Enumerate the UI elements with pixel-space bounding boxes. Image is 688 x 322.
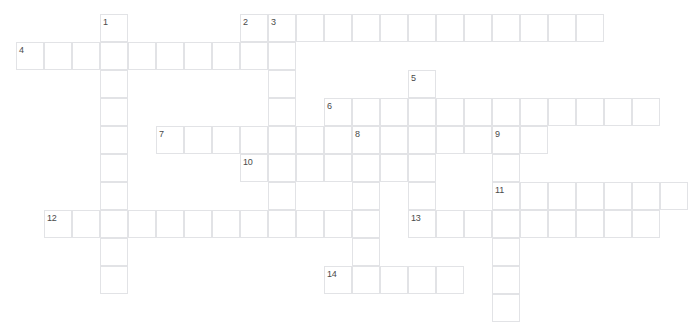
crossword-cell[interactable]	[44, 42, 72, 70]
crossword-cell[interactable]	[212, 210, 240, 238]
crossword-cell[interactable]	[604, 182, 632, 210]
crossword-cell[interactable]	[352, 98, 380, 126]
crossword-cell[interactable]	[632, 210, 660, 238]
crossword-cell[interactable]	[268, 182, 296, 210]
crossword-cell[interactable]	[324, 210, 352, 238]
crossword-cell[interactable]	[184, 210, 212, 238]
crossword-cell[interactable]	[156, 126, 184, 154]
crossword-cell[interactable]	[296, 14, 324, 42]
crossword-cell[interactable]	[352, 210, 380, 238]
crossword-cell[interactable]	[268, 126, 296, 154]
crossword-cell[interactable]	[492, 14, 520, 42]
crossword-cell[interactable]	[240, 126, 268, 154]
crossword-cell[interactable]	[240, 14, 268, 42]
crossword-cell[interactable]	[632, 98, 660, 126]
crossword-cell[interactable]	[100, 238, 128, 266]
crossword-cell[interactable]	[408, 182, 436, 210]
crossword-cell[interactable]	[492, 238, 520, 266]
crossword-cell[interactable]	[324, 126, 352, 154]
crossword-cell[interactable]	[492, 210, 520, 238]
crossword-cell[interactable]	[408, 98, 436, 126]
crossword-cell[interactable]	[352, 126, 380, 154]
crossword-cell[interactable]	[548, 210, 576, 238]
crossword-cell[interactable]	[296, 210, 324, 238]
crossword-cell[interactable]	[352, 154, 380, 182]
crossword-cell[interactable]	[184, 126, 212, 154]
crossword-cell[interactable]	[436, 210, 464, 238]
crossword-cell[interactable]	[100, 126, 128, 154]
crossword-cell[interactable]	[380, 98, 408, 126]
crossword-cell[interactable]	[464, 14, 492, 42]
crossword-cell[interactable]	[100, 266, 128, 294]
crossword-cell[interactable]	[408, 14, 436, 42]
crossword-cell[interactable]	[72, 210, 100, 238]
crossword-cell[interactable]	[464, 210, 492, 238]
crossword-cell[interactable]	[548, 14, 576, 42]
crossword-cell[interactable]	[156, 210, 184, 238]
crossword-cell[interactable]	[268, 154, 296, 182]
crossword-cell[interactable]	[296, 154, 324, 182]
crossword-cell[interactable]	[548, 182, 576, 210]
crossword-cell[interactable]	[380, 154, 408, 182]
crossword-cell[interactable]	[240, 210, 268, 238]
crossword-cell[interactable]	[352, 238, 380, 266]
crossword-cell[interactable]	[576, 14, 604, 42]
crossword-cell[interactable]	[492, 266, 520, 294]
crossword-cell[interactable]	[44, 210, 72, 238]
crossword-cell[interactable]	[324, 266, 352, 294]
crossword-cell[interactable]	[324, 154, 352, 182]
crossword-cell[interactable]	[492, 126, 520, 154]
crossword-cell[interactable]	[520, 182, 548, 210]
crossword-cell[interactable]	[100, 42, 128, 70]
crossword-cell[interactable]	[576, 210, 604, 238]
crossword-cell[interactable]	[268, 210, 296, 238]
crossword-cell[interactable]	[408, 154, 436, 182]
crossword-cell[interactable]	[492, 98, 520, 126]
crossword-cell[interactable]	[268, 14, 296, 42]
crossword-cell[interactable]	[324, 98, 352, 126]
crossword-cell[interactable]	[100, 154, 128, 182]
crossword-cell[interactable]	[380, 126, 408, 154]
crossword-cell[interactable]	[212, 42, 240, 70]
crossword-cell[interactable]	[380, 266, 408, 294]
crossword-cell[interactable]	[296, 126, 324, 154]
crossword-cell[interactable]	[492, 154, 520, 182]
crossword-cell[interactable]	[520, 126, 548, 154]
crossword-cell[interactable]	[576, 98, 604, 126]
crossword-cell[interactable]	[660, 182, 688, 210]
crossword-cell[interactable]	[576, 182, 604, 210]
crossword-cell[interactable]	[520, 14, 548, 42]
crossword-cell[interactable]	[212, 126, 240, 154]
crossword-cell[interactable]	[100, 14, 128, 42]
crossword-cell[interactable]	[100, 210, 128, 238]
crossword-cell[interactable]	[408, 266, 436, 294]
crossword-cell[interactable]	[324, 14, 352, 42]
crossword-cell[interactable]	[100, 182, 128, 210]
crossword-cell[interactable]	[268, 98, 296, 126]
crossword-cell[interactable]	[492, 182, 520, 210]
crossword-cell[interactable]	[128, 210, 156, 238]
crossword-cell[interactable]	[436, 98, 464, 126]
crossword-cell[interactable]	[240, 42, 268, 70]
crossword-cell[interactable]	[380, 14, 408, 42]
crossword-cell[interactable]	[156, 42, 184, 70]
crossword-cell[interactable]	[464, 98, 492, 126]
crossword-cell[interactable]	[100, 70, 128, 98]
crossword-cell[interactable]	[352, 266, 380, 294]
crossword-cell[interactable]	[464, 126, 492, 154]
crossword-cell[interactable]	[408, 126, 436, 154]
crossword-cell[interactable]	[268, 42, 296, 70]
crossword-cell[interactable]	[408, 210, 436, 238]
crossword-cell[interactable]	[352, 182, 380, 210]
crossword-cell[interactable]	[128, 42, 156, 70]
crossword-cell[interactable]	[520, 98, 548, 126]
crossword-cell[interactable]	[436, 126, 464, 154]
crossword-cell[interactable]	[632, 182, 660, 210]
crossword-cell[interactable]	[352, 14, 380, 42]
crossword-cell[interactable]	[240, 154, 268, 182]
crossword-cell[interactable]	[548, 98, 576, 126]
crossword-cell[interactable]	[408, 70, 436, 98]
crossword-cell[interactable]	[604, 210, 632, 238]
crossword-cell[interactable]	[268, 70, 296, 98]
crossword-cell[interactable]	[184, 42, 212, 70]
